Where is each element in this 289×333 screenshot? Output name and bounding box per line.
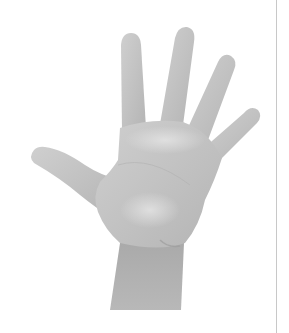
hand-illustration — [0, 0, 289, 333]
index-finger — [121, 33, 146, 132]
wrist — [110, 243, 184, 310]
middle-finger — [160, 27, 194, 125]
palm-highlight-lower — [120, 192, 180, 228]
hand-photo — [0, 0, 289, 333]
palm-highlight-upper — [125, 126, 205, 154]
right-edge-divider — [276, 0, 277, 333]
